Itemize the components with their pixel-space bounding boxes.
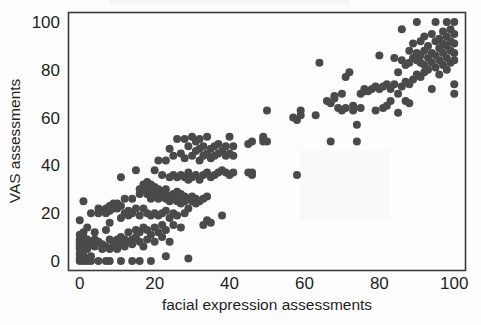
data-point [177, 224, 185, 232]
y-axis-title: VAS assessments [6, 78, 23, 203]
data-point [450, 30, 458, 38]
data-point [203, 192, 211, 200]
data-point [169, 152, 177, 160]
data-point [87, 209, 95, 217]
data-point [443, 18, 451, 26]
data-point [169, 221, 177, 229]
data-point [450, 49, 458, 57]
data-point [214, 140, 222, 148]
data-point [420, 32, 428, 40]
data-point [424, 42, 432, 50]
data-point [229, 169, 237, 177]
data-point [147, 257, 155, 265]
data-point [181, 154, 189, 162]
x-tick-label: 100 [440, 274, 468, 293]
data-point [428, 30, 436, 38]
y-tick-label: 80 [41, 61, 60, 80]
data-point [394, 109, 402, 117]
data-point [136, 212, 144, 220]
data-point [263, 138, 271, 146]
y-tick-label: 100 [32, 13, 60, 32]
x-tick-label: 20 [145, 274, 164, 293]
data-point [91, 228, 99, 236]
data-point [435, 71, 443, 79]
data-point [398, 25, 406, 33]
y-tick-label: 0 [51, 252, 60, 271]
data-point [136, 257, 144, 265]
data-point [297, 106, 305, 114]
data-point [203, 133, 211, 141]
data-point [229, 142, 237, 150]
data-point [390, 80, 398, 88]
data-point [158, 171, 166, 179]
data-point [327, 138, 335, 146]
data-point [166, 145, 174, 153]
data-point [450, 80, 458, 88]
data-point [162, 226, 170, 234]
y-axis-tick-labels: 020406080100 [32, 13, 60, 271]
data-point [128, 257, 136, 265]
data-point [166, 238, 174, 246]
data-point [443, 66, 451, 74]
data-point [184, 204, 192, 212]
data-point [372, 106, 380, 114]
data-point [162, 207, 170, 215]
x-axis-title: facial expression assessments [162, 296, 372, 313]
data-point [450, 40, 458, 48]
data-point [76, 216, 84, 224]
data-point [409, 40, 417, 48]
data-point [248, 138, 256, 146]
data-point [394, 68, 402, 76]
data-point [184, 255, 192, 263]
data-point [229, 152, 237, 160]
data-point [124, 228, 132, 236]
data-point [83, 224, 91, 232]
data-point [357, 104, 365, 112]
data-points-group [76, 18, 459, 265]
data-point [330, 92, 338, 100]
data-point [154, 157, 162, 165]
data-point [173, 135, 181, 143]
data-point [349, 102, 357, 110]
data-point [450, 90, 458, 98]
data-point [390, 54, 398, 62]
data-point [102, 226, 110, 234]
data-point [79, 197, 87, 205]
chart-canvas: 020406080100 020406080100 facial express… [0, 0, 481, 325]
data-point [87, 252, 95, 260]
data-point [128, 195, 136, 203]
data-point [353, 138, 361, 146]
data-point [342, 104, 350, 112]
data-point [293, 171, 301, 179]
data-point [222, 142, 230, 150]
x-tick-label: 60 [295, 274, 314, 293]
data-point [248, 169, 256, 177]
data-point [394, 90, 402, 98]
data-point [117, 202, 125, 210]
data-point [432, 63, 440, 71]
x-tick-label: 80 [370, 274, 389, 293]
data-point [106, 219, 114, 227]
data-point [405, 47, 413, 55]
data-point [207, 219, 215, 227]
y-tick-label: 40 [41, 156, 60, 175]
data-point [405, 99, 413, 107]
data-point [181, 135, 189, 143]
x-tick-label: 40 [220, 274, 239, 293]
data-point [132, 166, 140, 174]
data-point [353, 121, 361, 129]
data-point [450, 18, 458, 26]
data-point [312, 111, 320, 119]
data-point [226, 133, 234, 141]
data-point [199, 142, 207, 150]
data-point [263, 106, 271, 114]
y-tick-label: 60 [41, 109, 60, 128]
data-point [173, 212, 181, 220]
data-point [106, 257, 114, 265]
data-point [424, 66, 432, 74]
data-point [121, 195, 129, 203]
data-point [338, 90, 346, 98]
data-point [151, 238, 159, 246]
data-point [413, 18, 421, 26]
x-axis-tick-labels: 020406080100 [75, 274, 468, 293]
